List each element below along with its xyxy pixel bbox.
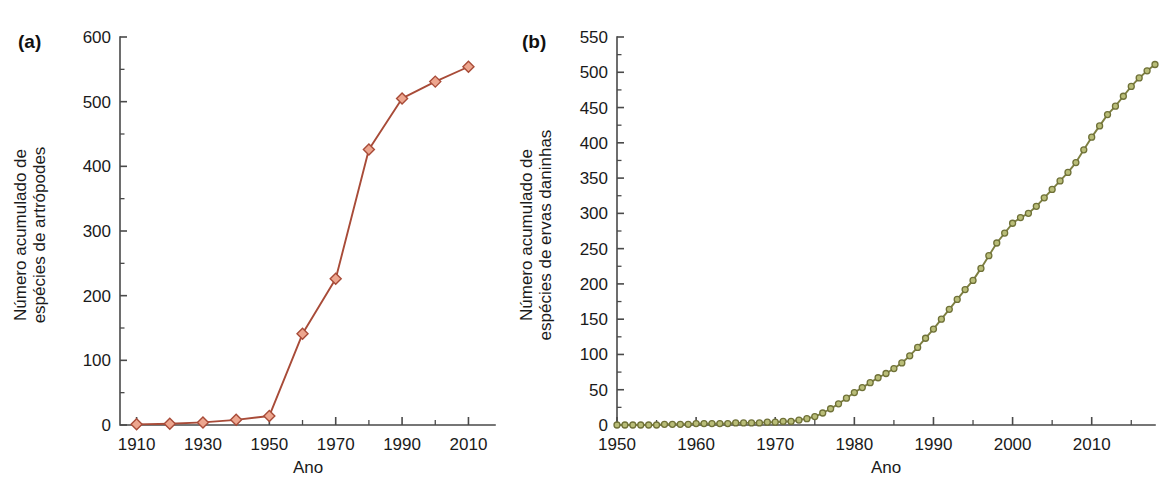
data-point-marker	[970, 277, 976, 283]
y-tick-label: 250	[580, 240, 608, 259]
y-tick-label: 400	[580, 134, 608, 153]
data-point-marker	[962, 287, 968, 293]
data-point-marker	[614, 422, 620, 428]
data-point-marker	[1152, 62, 1158, 68]
y-tick-label: 300	[580, 204, 608, 223]
y-tick-label: 600	[83, 28, 111, 47]
data-point-marker	[685, 421, 691, 427]
data-point-marker	[1089, 134, 1095, 140]
data-point-marker	[661, 421, 667, 427]
x-tick-label: 1950	[598, 435, 636, 454]
data-point-marker	[1081, 147, 1087, 153]
data-point-marker	[938, 316, 944, 322]
y-tick-label: 350	[580, 169, 608, 188]
data-point-marker	[756, 420, 762, 426]
x-tick-label: 1910	[118, 435, 156, 454]
x-tick-label: 1970	[756, 435, 794, 454]
data-point-marker	[622, 422, 628, 428]
data-point-marker	[780, 418, 786, 424]
data-point-marker	[812, 414, 818, 420]
axis-lines	[120, 37, 495, 425]
data-point-marker	[883, 371, 889, 377]
data-point-marker	[1097, 123, 1103, 129]
data-point-marker	[804, 416, 810, 422]
data-point-marker	[1010, 220, 1016, 226]
data-point-marker	[717, 421, 723, 427]
data-point-marker	[875, 375, 881, 381]
data-point-marker	[297, 328, 308, 339]
data-point-marker	[867, 380, 873, 386]
data-point-marker	[363, 144, 374, 155]
data-point-marker	[1073, 160, 1079, 166]
panel-label-b: (b)	[522, 31, 546, 52]
data-point-marker	[1057, 178, 1063, 184]
y-axis-title-line2: espécies de ervas daninhas	[536, 130, 555, 341]
y-axis-title-line1: Número acumulado de	[11, 149, 30, 321]
data-point-marker	[397, 93, 408, 104]
y-tick-label: 150	[580, 310, 608, 329]
series-line	[137, 67, 469, 425]
data-point-marker	[923, 335, 929, 341]
data-point-marker	[669, 421, 675, 427]
data-point-marker	[197, 417, 208, 428]
data-point-marker	[1002, 230, 1008, 236]
data-point-marker	[749, 420, 755, 426]
data-point-marker	[733, 420, 739, 426]
axis-lines	[617, 37, 1155, 425]
data-point-marker	[930, 326, 936, 332]
data-point-marker	[1025, 210, 1031, 216]
y-tick-label: 200	[580, 275, 608, 294]
data-point-marker	[701, 421, 707, 427]
data-point-marker	[891, 366, 897, 372]
data-point-marker	[646, 422, 652, 428]
x-tick-label: 1960	[677, 435, 715, 454]
x-axis-title: Ano	[871, 458, 901, 477]
data-point-marker	[994, 240, 1000, 246]
data-point-marker	[915, 344, 921, 350]
data-point-marker	[725, 421, 731, 427]
y-tick-label: 450	[580, 99, 608, 118]
data-point-marker	[1105, 112, 1111, 118]
x-tick-label: 1980	[835, 435, 873, 454]
data-point-marker	[764, 419, 770, 425]
y-tick-label: 100	[580, 345, 608, 364]
data-point-marker	[978, 265, 984, 271]
x-tick-label: 2010	[1073, 435, 1111, 454]
data-point-marker	[1049, 186, 1055, 192]
data-point-marker	[828, 406, 834, 412]
series-markers	[614, 62, 1158, 428]
data-point-marker	[836, 401, 842, 407]
data-point-marker	[851, 390, 857, 396]
data-point-marker	[463, 61, 474, 72]
x-tick-label: 1990	[383, 435, 421, 454]
data-point-marker	[638, 422, 644, 428]
data-point-marker	[741, 420, 747, 426]
x-tick-label: 1990	[915, 435, 953, 454]
data-point-marker	[843, 395, 849, 401]
y-tick-label: 500	[580, 63, 608, 82]
data-point-marker	[1065, 169, 1071, 175]
data-point-marker	[788, 418, 794, 424]
data-point-marker	[131, 419, 142, 430]
figure-container: (a)0100200300400500600191019301950197019…	[0, 0, 1170, 499]
y-tick-label: 550	[580, 28, 608, 47]
data-point-marker	[630, 422, 636, 428]
data-point-marker	[1033, 203, 1039, 209]
data-point-marker	[1018, 215, 1024, 221]
data-point-marker	[820, 410, 826, 416]
series-markers	[131, 61, 474, 430]
y-tick-label: 100	[83, 351, 111, 370]
data-point-marker	[1128, 83, 1134, 89]
data-point-marker	[796, 417, 802, 423]
data-point-marker	[986, 253, 992, 259]
y-tick-label: 0	[102, 416, 111, 435]
x-axis-title: Ano	[293, 458, 323, 477]
y-axis-title-line1: Número acumulado de	[517, 149, 536, 321]
data-point-marker	[1136, 75, 1142, 81]
data-point-marker	[164, 418, 175, 429]
y-tick-label: 50	[589, 381, 608, 400]
data-point-marker	[709, 421, 715, 427]
x-tick-label: 2010	[450, 435, 488, 454]
x-tick-label: 2000	[994, 435, 1032, 454]
x-tick-label: 1930	[184, 435, 222, 454]
